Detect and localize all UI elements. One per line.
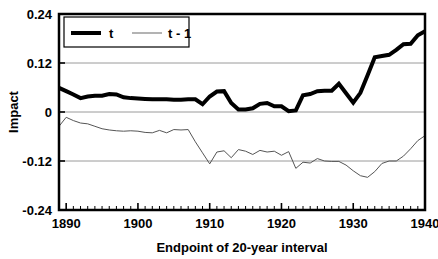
y-tick-label: -0.12 [22, 154, 52, 169]
x-tick-label: 1920 [267, 216, 296, 231]
x-tick-label: 1940 [411, 216, 438, 231]
x-tick-label: 1890 [52, 216, 81, 231]
x-axis-title: Endpoint of 20-year interval [156, 240, 327, 255]
x-axis-tick-labels: 189019001910192019301940 [52, 216, 438, 231]
y-tick-label: 0.12 [27, 56, 52, 71]
y-axis-tick-labels: 0.240.120-0.12-0.24 [22, 7, 52, 218]
x-tick-label: 1930 [339, 216, 368, 231]
legend-label-t: t [109, 26, 114, 41]
chart-figure: 189019001910192019301940 0.240.120-0.12-… [0, 0, 438, 259]
legend-label-t-minus-1: t - 1 [168, 26, 191, 41]
x-tick-label: 1910 [195, 216, 224, 231]
y-tick-label: 0 [45, 105, 52, 120]
line-chart: 189019001910192019301940 0.240.120-0.12-… [0, 0, 438, 259]
y-tick-label: -0.24 [22, 203, 52, 218]
legend: t t - 1 [64, 17, 191, 47]
y-tick-label: 0.24 [27, 7, 53, 22]
x-tick-label: 1900 [123, 216, 152, 231]
y-axis-title: Impact [6, 90, 21, 133]
